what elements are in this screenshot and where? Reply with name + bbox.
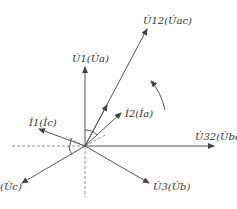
label-u32: U̇32(U̇bc) bbox=[195, 131, 237, 142]
label-u12: U̇12(U̇ac) bbox=[143, 15, 192, 26]
rotation-arrow-icon bbox=[151, 81, 165, 110]
vector-i2 bbox=[85, 113, 121, 146]
vector-u3 bbox=[85, 146, 149, 183]
label-uc: (U̇c) bbox=[0, 181, 22, 192]
vector-uc bbox=[22, 146, 85, 183]
label-i2: İ2(İa) bbox=[124, 108, 153, 119]
label-u1: U̇1(U̇a) bbox=[72, 53, 109, 64]
phasor-diagram: U̇12(U̇ac) U̇1(U̇a) İ2(İa) İ1(İc) U̇32(U… bbox=[0, 0, 237, 209]
label-u3: U̇3(U̇b) bbox=[153, 181, 191, 192]
label-i1: İ1(İc) bbox=[28, 117, 57, 128]
vector-i1 bbox=[39, 129, 85, 146]
